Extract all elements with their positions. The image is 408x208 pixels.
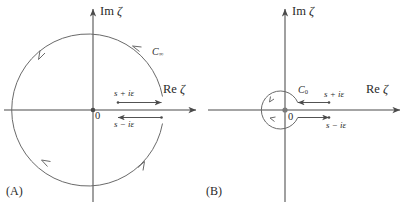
contour-direction-arrowheads bbox=[270, 97, 276, 122]
branch-cut-upper-path bbox=[117, 101, 162, 104]
real-axis-label: Re ζ bbox=[366, 83, 388, 96]
complex-plane-contour-figure: Im ζ Re ζ 0 C∞ s + iε s − iε (A) bbox=[0, 0, 408, 208]
imaginary-axis-label: Im ζ bbox=[292, 5, 314, 18]
real-axis-label: Re ζ bbox=[163, 83, 185, 96]
origin-point bbox=[282, 107, 287, 112]
origin-label: 0 bbox=[95, 111, 100, 122]
label-s-minus-i-epsilon: s − iε bbox=[114, 120, 134, 129]
panel-a: Im ζ Re ζ 0 C∞ s + iε s − iε (A) bbox=[0, 0, 204, 208]
imaginary-axis-label: Im ζ bbox=[100, 5, 122, 18]
label-s-plus-i-epsilon: s + iε bbox=[114, 89, 134, 98]
label-s-plus-i-epsilon: s + iε bbox=[324, 90, 344, 99]
origin-label: 0 bbox=[288, 112, 293, 123]
contour-direction-arrowheads bbox=[39, 46, 145, 171]
branch-cut-lower-path bbox=[298, 116, 331, 119]
panel-tag-a: (A) bbox=[6, 185, 23, 197]
contour-label-c-infinity: C∞ bbox=[152, 47, 163, 58]
panel-b: Im ζ Re ζ 0 C0 s + iε s − iε (B) bbox=[204, 0, 408, 208]
branch-cut-upper-path bbox=[298, 101, 331, 104]
label-s-minus-i-epsilon: s − iε bbox=[326, 121, 346, 130]
panel-tag-b: (B) bbox=[206, 185, 222, 197]
panel-b-diagram bbox=[204, 0, 408, 208]
contour-label-c-zero: C0 bbox=[298, 85, 308, 96]
panel-a-diagram bbox=[0, 0, 204, 208]
